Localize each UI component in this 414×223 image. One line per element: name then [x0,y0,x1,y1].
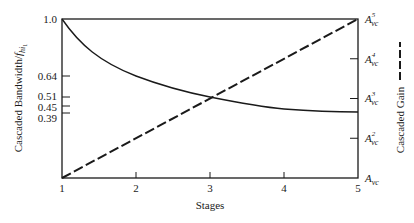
svg-text:5: 5 [355,182,361,194]
right-tick-labels: Avc A2vc A3vc A4vc A5vc [364,11,379,187]
svg-text:A2vc: A2vc [364,130,379,147]
svg-text:A3vc: A3vc [364,90,379,107]
right-axis-title: Cascaded Gain [394,86,406,153]
gain-line [62,19,358,178]
x-axis-title: Stages [196,199,225,211]
right-axis-title-group: Cascaded Gain [394,42,406,153]
svg-text:0.39: 0.39 [38,112,58,124]
svg-text:2: 2 [133,182,139,194]
svg-text:A4vc: A4vc [364,51,379,68]
left-axis-title: Cascaded Bandwidth/fhi1 [12,44,28,153]
svg-text:4: 4 [281,182,287,194]
svg-text:1.0: 1.0 [43,13,57,25]
right-ticks [350,59,358,139]
svg-text:1: 1 [59,182,65,194]
svg-text:A5vc: A5vc [364,11,379,28]
x-tick-labels: 1 2 3 4 5 [59,182,361,194]
x-ticks [136,172,284,178]
chart-svg: 1 2 3 4 5 Stages 1.0 0.64 0.51 0.45 0.39… [0,0,414,223]
svg-text:3: 3 [207,182,213,194]
left-tick-labels: 1.0 0.64 0.51 0.45 0.39 [38,13,58,124]
svg-text:Avc: Avc [364,172,379,187]
svg-text:0.64: 0.64 [38,70,58,82]
left-ticks [62,76,70,113]
